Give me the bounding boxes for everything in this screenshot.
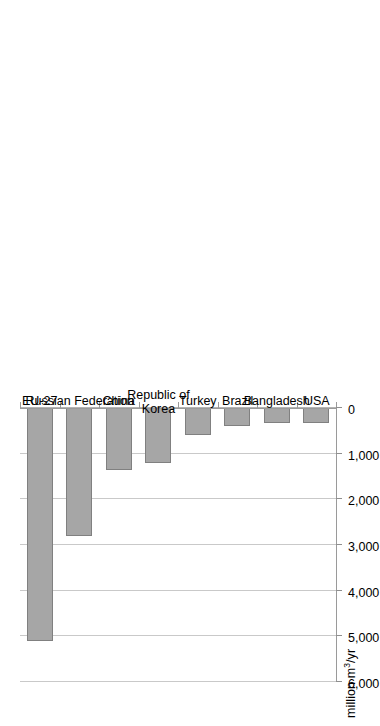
bar-row [106,408,132,682]
bar [224,408,250,426]
value-tick [336,453,342,454]
value-tick-label: 3,000 [348,540,379,554]
bar-row [145,408,171,682]
bar-row [66,408,92,682]
bar-row [224,408,250,682]
bar-row [303,408,329,682]
axis-title-suffix: /yr [344,649,358,663]
bar-row [264,408,290,682]
bar [106,408,132,470]
value-tick-label: 1,000 [348,449,379,463]
plot-area [20,408,336,682]
bar [264,408,290,423]
bar-row [185,408,211,682]
chart-figure: million m3/yr 6,0005,0004,0003,0002,0001… [0,0,380,726]
value-tick-label: 6,000 [348,677,379,691]
bar [303,408,329,423]
axis-title-exponent: 3 [342,663,352,668]
value-tick [336,590,342,591]
value-tick [336,635,342,636]
bar [27,408,53,641]
bar [66,408,92,536]
value-tick [336,498,342,499]
category-label: USA [256,395,376,409]
bar [145,408,171,463]
chart-stage: million m3/yr 6,0005,0004,0003,0002,0001… [0,0,380,726]
bar-row [27,408,53,682]
value-tick-label: 2,000 [348,494,379,508]
value-tick [336,544,342,545]
axis-title-prefix: million m [344,668,358,718]
value-tick-label: 4,000 [348,586,379,600]
value-tick-label: 5,000 [348,631,379,645]
value-tick [336,681,342,682]
